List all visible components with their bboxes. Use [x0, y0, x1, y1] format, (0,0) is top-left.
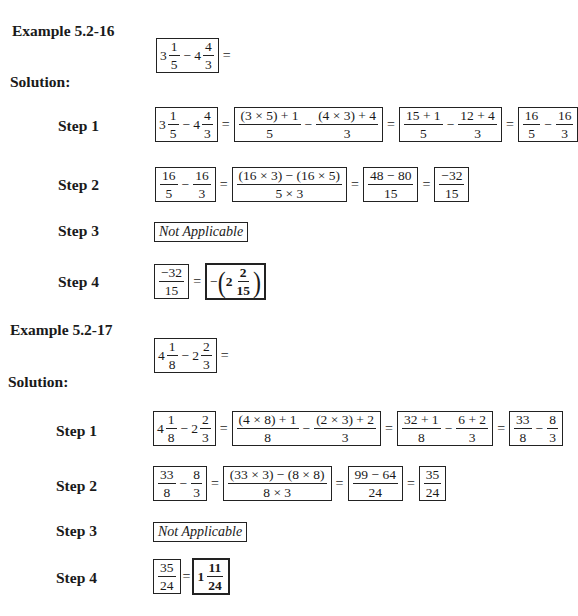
numerator: 32 + 1	[402, 413, 441, 429]
denominator: 5	[264, 125, 275, 141]
numerator: 35	[158, 561, 176, 577]
numerator: 15 + 1	[404, 109, 443, 125]
denominator: 3	[559, 125, 570, 141]
numerator: 4	[202, 109, 213, 125]
numerator: (33 × 3) − (8 × 8)	[228, 468, 327, 484]
equals-sign: =	[193, 274, 201, 290]
expression-box: (4 × 8) + 18 − (2 × 3) + 23	[232, 411, 382, 446]
operator: −	[182, 349, 190, 363]
denominator: 3	[202, 125, 213, 141]
fraction: 338	[514, 413, 532, 444]
numerator: 2	[201, 340, 212, 356]
numerator: 8	[547, 413, 558, 429]
expression-box: 48 − 8015	[363, 167, 418, 202]
denominator: 15	[382, 185, 400, 201]
expression-box: 99 − 6424	[348, 466, 403, 501]
fraction: 43	[203, 40, 214, 71]
step-label: Step 2	[56, 477, 97, 495]
numerator: 1	[169, 40, 180, 56]
equals-sign: =	[220, 421, 228, 437]
numerator: 1	[166, 413, 177, 429]
whole-number: 4	[158, 349, 165, 363]
numerator: 4	[203, 40, 214, 56]
fraction: −3215	[159, 266, 184, 297]
numerator: 16	[160, 169, 178, 185]
operator: −	[536, 422, 544, 436]
fraction: 6 + 23	[456, 413, 488, 444]
fraction: 23	[200, 413, 211, 444]
step-2-expression: 338 − 83 = (33 × 3) − (8 × 8)8 × 3 = 99 …	[153, 466, 446, 501]
denominator: 3	[203, 56, 214, 72]
whole-number: 4	[157, 422, 164, 436]
step-4-expression: −3215 = − ( 2 215 )	[154, 263, 266, 300]
fraction: 165	[160, 169, 178, 200]
step-label: Step 1	[58, 117, 99, 135]
denominator: 24	[424, 484, 442, 500]
problem-expression: 4 18 − 2 23 =	[154, 338, 233, 373]
equals-sign: =	[336, 476, 344, 492]
whole-number: 2	[192, 349, 199, 363]
whole-number: 2	[226, 275, 233, 289]
expression-box: (16 × 3) − (16 × 5)5 × 3	[232, 167, 348, 202]
solution-label: Solution:	[10, 73, 70, 91]
equals-sign: =	[351, 177, 359, 193]
numerator: 8	[191, 468, 202, 484]
denominator: 3	[191, 484, 202, 500]
whole-number: 2	[191, 422, 198, 436]
problem-box: 3 15 − 4 43	[156, 38, 219, 73]
step-label: Step 3	[58, 222, 99, 240]
operator: −	[544, 118, 552, 132]
numerator: 1	[168, 109, 179, 125]
numerator: (2 × 3) + 2	[314, 413, 376, 429]
fraction: 15	[169, 40, 180, 71]
denominator: 8	[166, 429, 177, 445]
fraction: (4 × 8) + 18	[237, 413, 299, 444]
equals-sign: =	[387, 117, 395, 133]
denominator: 3	[467, 429, 478, 445]
whole-number: 4	[194, 49, 201, 63]
equals-sign: =	[223, 48, 231, 64]
denominator: 5	[169, 56, 180, 72]
fraction: 12 + 43	[458, 109, 497, 140]
whole-number: 3	[160, 49, 167, 63]
fraction: 99 − 6424	[353, 468, 398, 499]
expression-box: 15 + 15 − 12 + 43	[399, 107, 502, 142]
problem-box: 4 18 − 2 23	[154, 338, 217, 373]
final-answer-box: − ( 2 215 )	[205, 263, 266, 300]
expression-box: 4 18 − 2 23	[153, 411, 216, 446]
fraction: (33 × 3) − (8 × 8)8 × 3	[228, 468, 327, 499]
equals-sign: =	[506, 117, 514, 133]
left-paren: (	[218, 267, 226, 296]
denominator: 8 × 3	[261, 484, 293, 500]
fraction: (16 × 3) − (16 × 5)5 × 3	[237, 169, 343, 200]
fraction: (3 × 5) + 15	[239, 109, 301, 140]
equals-sign: =	[183, 569, 191, 585]
operator: −	[183, 118, 191, 132]
operator: −	[184, 49, 192, 63]
fraction: 48 − 8015	[368, 169, 413, 200]
fraction: 1124	[206, 561, 224, 592]
denominator: 24	[366, 484, 384, 500]
fraction: 338	[158, 468, 176, 499]
expression-box: −3215	[434, 167, 469, 202]
numerator: −32	[439, 169, 464, 185]
fraction: 163	[193, 169, 211, 200]
denominator: 3	[547, 429, 558, 445]
step-1-expression: 3 15 − 4 43 = (3 × 5) + 15 − (4 × 3) + 4…	[155, 107, 578, 142]
numerator: 16	[193, 169, 211, 185]
numerator: 2	[200, 413, 211, 429]
fraction: −3215	[439, 169, 464, 200]
operator: −	[305, 118, 313, 132]
denominator: 5	[168, 125, 179, 141]
step-label: Step 3	[56, 522, 97, 540]
numerator: 11	[207, 561, 224, 577]
step-3-expression: Not Applicable	[154, 222, 248, 242]
fraction: 23	[201, 340, 212, 371]
example-title: Example 5.2-16	[12, 22, 114, 40]
denominator: 3	[340, 429, 351, 445]
numerator: (4 × 8) + 1	[237, 413, 299, 429]
whole-number: 3	[159, 118, 166, 132]
equals-sign: =	[422, 177, 430, 193]
expression-box: (33 × 3) − (8 × 8)8 × 3	[223, 466, 332, 501]
numerator: 16	[523, 109, 541, 125]
